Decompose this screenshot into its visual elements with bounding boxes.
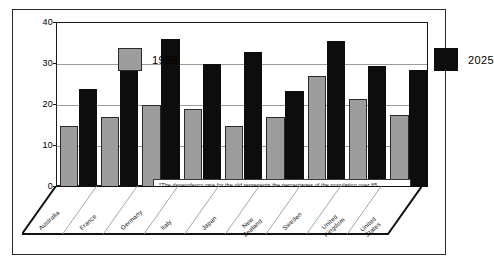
legend-item-2025[interactable]: 2025 [434,48,494,71]
bar-1985-italy[interactable] [184,109,203,187]
legend-label-2025: 2025 [468,54,494,66]
bar-1985-new-zealand[interactable] [266,117,285,187]
bar-group [222,23,263,187]
y-tick-label: 20 [43,100,53,109]
bar-2025-france[interactable] [120,64,139,187]
bar-1985-sweden[interactable] [308,76,327,187]
legend-swatch-2025-icon [434,48,458,71]
bar-2025-australia[interactable] [79,89,98,187]
plot-area [56,22,428,186]
legend-item-1985[interactable]: 1985 [118,48,178,71]
legend-label-1985: 1985 [152,54,178,66]
bar-1985-australia[interactable] [60,126,79,188]
y-axis: PERCENTAGE 010203040 [40,22,56,186]
bar-group [57,23,98,187]
bar-group [388,23,429,187]
bar-2025-new-zealand[interactable] [285,91,304,187]
bar-2025-italy[interactable] [203,64,222,187]
bar-2025-united-kingdom[interactable] [368,66,387,187]
legend-swatch-1985-icon [118,48,142,71]
base-parallelogram-icon [22,186,422,244]
bar-2025-united-states[interactable] [409,70,428,187]
bar-series-container [57,23,429,187]
y-tick-label: 10 [43,141,53,150]
plot-wrap: 1985 2025 *The dependency rate for the o… [56,22,428,186]
bar-group [181,23,222,187]
x-axis-base: AustraliaFranceGermanyItalyJapanNewZeala… [22,186,422,244]
bar-2025-sweden[interactable] [327,41,346,187]
bar-1985-united-kingdom[interactable] [349,99,368,187]
bar-1985-france[interactable] [101,117,120,187]
bar-group [305,23,346,187]
bar-1985-germany[interactable] [142,105,161,187]
bar-group [346,23,387,187]
bar-1985-japan[interactable] [225,126,244,188]
y-tick-label: 30 [43,59,53,68]
bar-1985-united-states[interactable] [390,115,409,187]
bar-group [264,23,305,187]
bar-2025-japan[interactable] [244,52,263,187]
y-tick-label: 40 [43,18,53,27]
